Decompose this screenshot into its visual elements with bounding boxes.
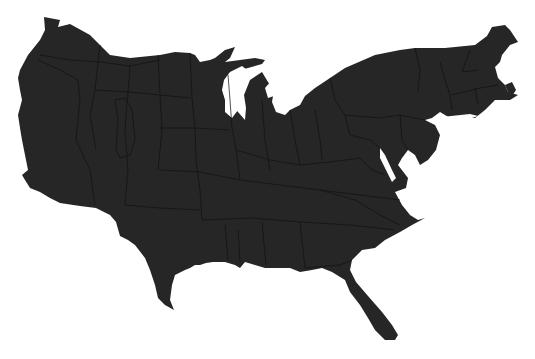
us-cartogram-map: Cartogram of the contiguous United State…	[0, 0, 535, 359]
map-svg	[0, 0, 535, 359]
us-landmass	[18, 17, 518, 340]
